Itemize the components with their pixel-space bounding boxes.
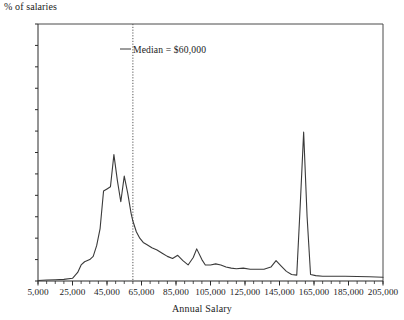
x-axis-tick-label: 105,000 (195, 287, 226, 297)
x-axis-tick-label: 85,000 (163, 287, 189, 297)
x-axis-tick-label: 25,000 (60, 287, 86, 297)
plot-frame (38, 24, 383, 281)
salary-distribution-line (38, 132, 383, 280)
chart-container: % of salaries 024681012141618202224 5,00… (0, 0, 404, 320)
x-axis-title: Annual Salary (0, 303, 404, 315)
x-axis-tick-label: 205,000 (368, 287, 399, 297)
x-axis-tick-label: 165,000 (299, 287, 330, 297)
x-axis-tick-label: 5,000 (27, 287, 48, 297)
x-axis-tick-label: 185,000 (333, 287, 364, 297)
x-axis-tick-label: 65,000 (129, 287, 155, 297)
x-axis-tick-label: 145,000 (264, 287, 295, 297)
x-axis-tick-label: 45,000 (94, 287, 120, 297)
x-axis-minor-ticks (38, 281, 383, 284)
median-annotation-label: Median = $60,000 (133, 44, 206, 55)
x-axis-tick-label: 125,000 (230, 287, 261, 297)
y-axis-tick-labels: 024681012141618202224 (0, 0, 34, 320)
